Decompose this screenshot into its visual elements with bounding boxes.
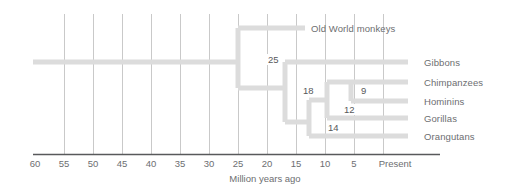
axis-tick-35: 35	[175, 158, 186, 169]
axis-tick-40: 40	[146, 158, 157, 169]
node-label-14: 14	[327, 122, 340, 133]
node-label-12: 12	[343, 104, 356, 115]
tip-label-orangutans: Orangutans	[424, 131, 475, 142]
node-label-18: 18	[302, 85, 315, 96]
axis-title: Million years ago	[229, 173, 300, 184]
tip-label-chimpanzees: Chimpanzees	[424, 77, 483, 88]
axis-tick-25: 25	[233, 158, 244, 169]
axis-tick-present: Present	[379, 158, 412, 169]
axis-tick-45: 45	[117, 158, 128, 169]
tree-canvas	[0, 0, 513, 190]
tip-label-gibbons: Gibbons	[424, 57, 460, 68]
axis-tick-10: 10	[320, 158, 331, 169]
tip-label-old-world-monkeys: Old World monkeys	[311, 23, 395, 34]
node-label-9: 9	[360, 85, 367, 96]
axis-tick-20: 20	[262, 158, 273, 169]
phylogenetic-tree-figure: 25 18 14 12 9 Old World monkeys Gibbons …	[0, 0, 513, 190]
axis-tick-30: 30	[204, 158, 215, 169]
axis-tick-50: 50	[88, 158, 99, 169]
axis-tick-15: 15	[291, 158, 302, 169]
axis-tick-5: 5	[351, 158, 356, 169]
tip-label-gorillas: Gorillas	[424, 113, 457, 124]
tip-label-hominins: Hominins	[424, 96, 464, 107]
axis-tick-60: 60	[30, 158, 41, 169]
node-label-25: 25	[267, 54, 280, 65]
axis-tick-55: 55	[59, 158, 70, 169]
tree-branches	[33, 28, 408, 136]
